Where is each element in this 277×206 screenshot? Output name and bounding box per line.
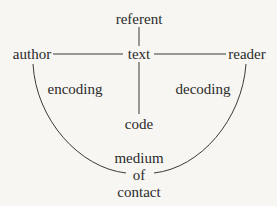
node-medium-line3: contact [117,184,160,200]
node-referent: referent [116,11,163,27]
node-text: text [128,46,151,62]
node-medium-line2: of [133,167,146,183]
node-code: code [125,116,153,132]
label-encoding: encoding [48,81,103,97]
label-decoding: decoding [176,81,231,97]
node-medium-line1: medium [114,150,163,166]
node-reader: reader [228,46,265,62]
node-author: author [13,46,51,62]
communication-diagram: referent author text reader encoding dec… [0,0,277,206]
